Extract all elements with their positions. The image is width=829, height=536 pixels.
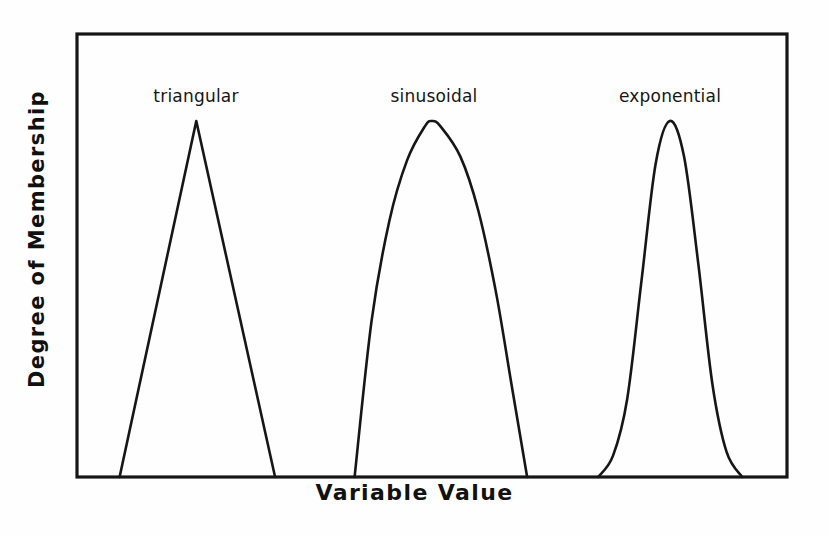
- curve-label-sinusoidal: sinusoidal: [354, 86, 514, 106]
- curve-label-triangular: triangular: [116, 86, 276, 106]
- curve-triangular: [120, 121, 275, 477]
- y-axis-title-container: Degree of Membership: [0, 0, 74, 477]
- y-axis-title: Degree of Membership: [25, 89, 49, 387]
- curve-label-exponential: exponential: [588, 86, 752, 106]
- curve-sinusoidal: [355, 121, 528, 477]
- x-axis-title: Variable Value: [0, 480, 829, 505]
- curve-exponential: [598, 121, 742, 477]
- chart-canvas: [0, 0, 829, 536]
- figure-container: Degree of Membership Variable Value tria…: [0, 0, 829, 536]
